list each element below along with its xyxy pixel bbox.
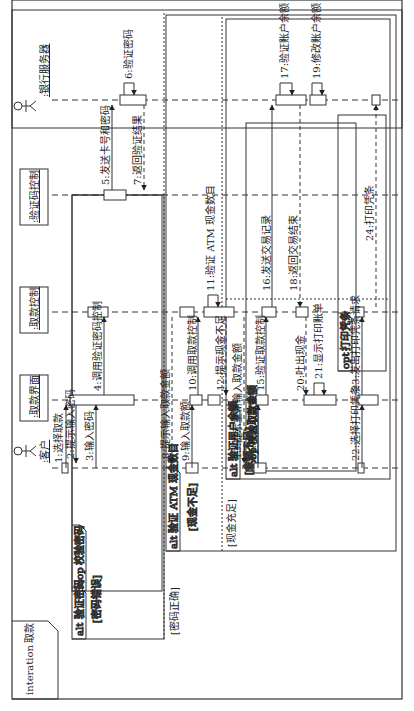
- message-21: [314, 383, 324, 395]
- alt-keyword-atm: alt: [168, 536, 179, 549]
- message-label-13: 13:提示重新输入取款金额: [231, 343, 243, 459]
- message-label-11: 11:验证 ATM 现金数目: [204, 185, 216, 291]
- frame-title: 取款: [23, 623, 35, 643]
- message-label-18: 18:返回交易结束: [287, 215, 299, 291]
- message-label-3: 3:输入密码: [83, 411, 95, 461]
- alt-keyword-balance: alt: [228, 464, 239, 477]
- guard-cash-enough: [现金充足]: [225, 499, 237, 547]
- message-19: [312, 83, 322, 95]
- participant-label-verify: :验证码控制: [28, 170, 40, 223]
- message-label-9: 9:输入取款额: [179, 401, 191, 461]
- message-label-19: 19:修改账户余额: [310, 3, 322, 79]
- sequence-diagram-canvas: interation 取款 :客户 :取款界面 :取款控制 :验证码控制: [0, 0, 414, 711]
- loop-title-password: 校验密码: [73, 525, 85, 565]
- message-label-4: 4:调用验证密码控制: [91, 301, 103, 391]
- message-label-14: 14:输入取款额: [246, 395, 258, 461]
- message-label-7: 7:返回验证结果: [131, 115, 143, 185]
- object-verify: :验证码控制: [20, 169, 48, 225]
- message-label-6: 6:验证密码: [122, 29, 134, 79]
- fragment-loop-password: loop 校验密码: [72, 195, 162, 591]
- guard-cash-short: [现金不足]: [186, 483, 198, 531]
- message-label-12: 12:提示现金不足: [214, 315, 226, 391]
- message-17: [280, 83, 292, 95]
- actor-customer: :客户: [14, 440, 50, 463]
- object-ctrl: :取款控制: [20, 287, 48, 333]
- message-label-1: 1:选择取款: [52, 413, 64, 463]
- participant-label-bank: :银行服务器: [38, 44, 50, 97]
- message-label-16: 16:发送交易记录: [260, 215, 272, 291]
- message-label-10: 10:调用取款控制: [186, 315, 198, 391]
- loop-keyword: loop: [74, 567, 85, 589]
- alt-keyword: alt: [74, 623, 85, 636]
- message-labels: 1:选择取款 2:提示输入密码 3:输入密码 4:调用验证密码控制 5:发送卡号…: [52, 3, 375, 463]
- actor-bank: :银行服务器: [14, 44, 50, 112]
- guard-password-correct: [密码正确]: [168, 587, 180, 635]
- message-label-22: 22:选择打印凭条: [349, 385, 361, 461]
- message-label-2: 2:提示输入密码: [64, 389, 76, 459]
- message-11: [208, 295, 218, 307]
- message-label-24: 24:打印凭条: [363, 185, 375, 241]
- frame-keyword: interation: [24, 644, 35, 695]
- participant-label-ui: :取款界面: [28, 375, 40, 418]
- message-label-8: 8:提示输入取款金额: [159, 369, 171, 459]
- message-6: [124, 83, 134, 95]
- participant-label-ctrl: :取款控制: [28, 287, 40, 330]
- guard-password-wrong: [密码错误]: [90, 575, 102, 623]
- message-label-20: 20:吐出现金: [294, 335, 306, 391]
- message-label-17: 17:验证账户余额: [278, 3, 290, 79]
- messages: [66, 83, 376, 468]
- message-label-23: 23:发出打印凭条请求: [349, 295, 361, 391]
- message-label-21: 21:显示打印账单: [312, 303, 324, 379]
- participant-headers: :客户 :取款界面 :取款控制 :验证码控制 :银行服务器: [14, 44, 50, 463]
- fragment-loop-amount: loop 校验取款金额: [246, 123, 356, 471]
- message-label-5: 5:发送卡号和密码: [99, 105, 111, 185]
- message-label-15: 15:验证取款控制: [254, 315, 266, 391]
- object-ui: :取款界面: [20, 375, 48, 421]
- participant-label-customer: :客户: [38, 440, 50, 463]
